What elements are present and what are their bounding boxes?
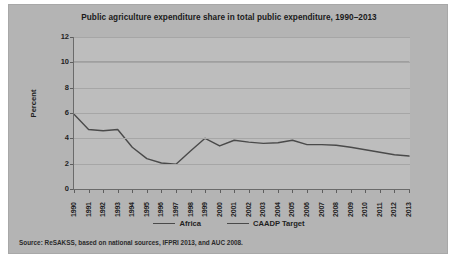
x-axis-tick-label: 1998 [187, 202, 194, 217]
x-axis-tick-mark [220, 190, 221, 193]
x-axis-tick-mark [147, 190, 148, 193]
y-axis-tick-label: 10 [47, 58, 69, 66]
x-axis-tick-mark [307, 190, 308, 193]
x-axis-tick-label: 1997 [172, 202, 179, 217]
x-axis-tick-mark [249, 190, 250, 193]
chart-legend: Africa CAADP Target [9, 216, 449, 230]
y-axis-tick-label: 4 [47, 134, 69, 142]
x-axis-tick-mark [234, 190, 235, 193]
x-axis-tick-label: 2005 [288, 202, 295, 217]
gridline [74, 113, 410, 114]
y-axis-tick-label: 8 [47, 84, 69, 92]
x-axis-tick-mark [103, 190, 104, 193]
y-axis-tick-mark [70, 88, 73, 89]
y-axis-tick-mark [70, 164, 73, 165]
x-axis-tick-label: 2001 [230, 202, 237, 217]
x-axis-tick-mark [365, 190, 366, 193]
x-axis-tick-label: 1990 [70, 202, 77, 217]
x-axis-tick-mark [89, 190, 90, 193]
x-axis-tick-mark [292, 190, 293, 193]
x-axis-tick-label: 2007 [318, 202, 325, 217]
gridline [74, 138, 410, 139]
x-axis-tick-mark [322, 190, 323, 193]
x-axis-tick-label: 2006 [303, 202, 310, 217]
gridline [74, 37, 410, 38]
x-axis-tick-mark [74, 190, 75, 193]
x-axis-tick-label: 2002 [245, 202, 252, 217]
gridline [74, 62, 410, 63]
y-axis-title: Percent [29, 74, 38, 134]
y-axis-tick-mark [70, 37, 73, 38]
x-axis-tick-label: 1991 [85, 202, 92, 217]
x-axis-tick-label: 2012 [390, 202, 397, 217]
x-axis-tick-label: 1992 [99, 202, 106, 217]
x-axis-tick-mark [278, 190, 279, 193]
x-axis-tick-mark [132, 190, 133, 193]
x-axis-tick-mark [263, 190, 264, 193]
x-axis-tick-label: 1994 [128, 202, 135, 217]
x-axis-tick-label: 2004 [274, 202, 281, 217]
y-axis-tick-mark [70, 189, 73, 190]
x-axis-tick-label: 2003 [259, 202, 266, 217]
x-axis-tick-mark [336, 190, 337, 193]
x-axis-tick-label: 2000 [216, 202, 223, 217]
x-axis-tick-label: 2008 [332, 202, 339, 217]
x-axis-tick-label: 2011 [376, 203, 383, 217]
legend-line-icon-caadp-target [227, 223, 249, 224]
x-axis-tick-mark [351, 190, 352, 193]
y-axis-tick-mark [70, 113, 73, 114]
x-axis-tick-label: 2010 [361, 202, 368, 217]
gridline [74, 88, 410, 89]
gridline [74, 164, 410, 165]
x-axis-tick-label: 1999 [201, 202, 208, 217]
x-axis-tick-mark [161, 190, 162, 193]
legend-item-caadp-target[interactable]: CAADP Target [227, 219, 305, 228]
y-axis-tick-label: 12 [47, 33, 69, 41]
y-axis-tick-mark [70, 62, 73, 63]
y-axis-tick-label: 2 [47, 160, 69, 168]
x-axis-tick-mark [409, 190, 410, 193]
legend-label-africa: Africa [179, 219, 201, 228]
plot-area [74, 37, 410, 189]
legend-line-icon-africa [153, 223, 175, 224]
y-axis-tick-label: 6 [47, 109, 69, 117]
x-axis-tick-label: 1993 [114, 202, 121, 217]
x-axis-tick-mark [205, 190, 206, 193]
x-axis-tick-mark [394, 190, 395, 193]
legend-item-africa[interactable]: Africa [153, 219, 201, 228]
chart-title: Public agriculture expenditure share in … [9, 13, 449, 22]
x-axis-tick-labels: 1990199119921993199419951996199719981999… [9, 190, 449, 218]
y-axis-tick-mark [70, 138, 73, 139]
series-line-africa [74, 114, 409, 164]
x-axis-tick-mark [118, 190, 119, 193]
chart-panel: Public agriculture expenditure share in … [8, 4, 448, 254]
source-note: Source: ReSAKSS, based on national sourc… [19, 239, 243, 246]
legend-label-caadp-target: CAADP Target [253, 219, 305, 228]
figure-container: Public agriculture expenditure share in … [0, 0, 461, 266]
x-axis-tick-mark [176, 190, 177, 193]
x-axis-tick-label: 2013 [405, 202, 412, 217]
x-axis-tick-mark [380, 190, 381, 193]
x-axis-tick-mark [191, 190, 192, 193]
x-axis-tick-label: 2009 [347, 202, 354, 217]
x-axis-tick-label: 1995 [143, 202, 150, 217]
x-axis-tick-label: 1996 [157, 202, 164, 217]
